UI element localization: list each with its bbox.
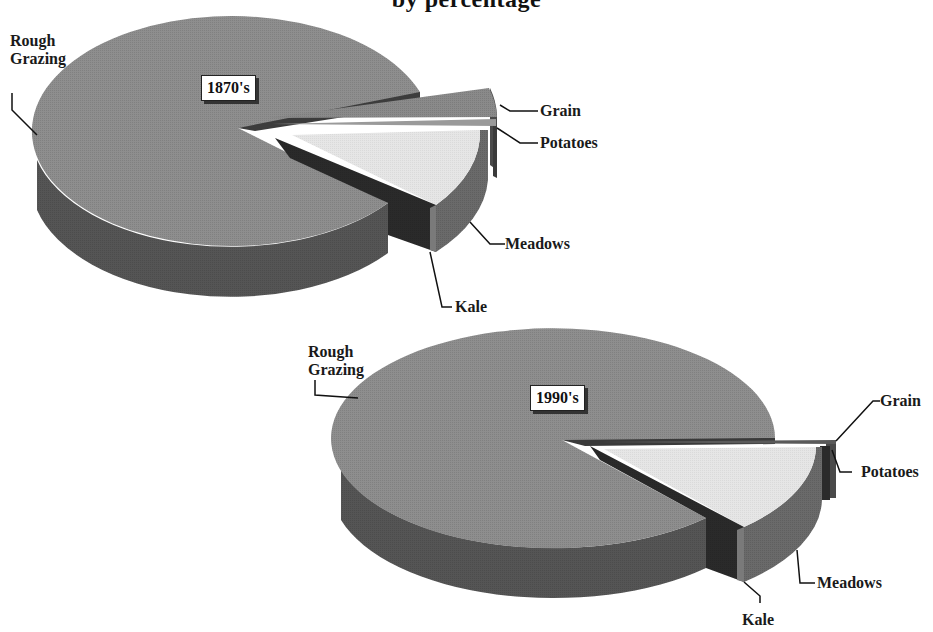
slice-kale-edge <box>430 205 436 252</box>
leader-potatoes-1870s <box>497 128 538 143</box>
label-potatoes-1990s: Potatoes <box>861 463 919 480</box>
leader-kale-1990s <box>744 582 760 603</box>
label-grazing-1870s: Grazing <box>10 50 66 68</box>
label-meadows-1990s: Meadows <box>817 574 882 591</box>
leader-meadows-1870s <box>470 222 505 244</box>
pie-charts: Rough Grazing Grain Potatoes Meadows Kal… <box>0 0 933 632</box>
era-label-1990s: 1990's <box>530 385 585 411</box>
label-rough-1990s: Rough <box>308 343 353 361</box>
label-potatoes-1870s: Potatoes <box>540 134 598 151</box>
label-rough-1870s: Rough <box>10 32 55 50</box>
slice-kale-edge-2 <box>737 527 744 582</box>
label-kale-1870s: Kale <box>455 298 487 315</box>
label-grain-1990s: Grain <box>880 392 921 409</box>
label-grain-1870s: Grain <box>540 102 581 119</box>
pie-1990s: Rough Grazing Grain Potatoes Meadows Kal… <box>308 328 921 628</box>
leader-kale-1870s <box>430 252 452 307</box>
leader-meadows-1990s <box>797 550 815 583</box>
era-label-1870s: 1870's <box>201 75 256 101</box>
slice-potatoes-side <box>493 124 497 178</box>
label-grazing-1990s: Grazing <box>308 361 364 379</box>
leader-grain-1870s <box>500 105 538 111</box>
leader-grain-1990s <box>836 401 880 441</box>
label-meadows-1870s: Meadows <box>505 235 570 252</box>
label-kale-1990s: Kale <box>742 611 774 628</box>
pie-1870s: Rough Grazing Grain Potatoes Meadows Kal… <box>10 16 598 315</box>
